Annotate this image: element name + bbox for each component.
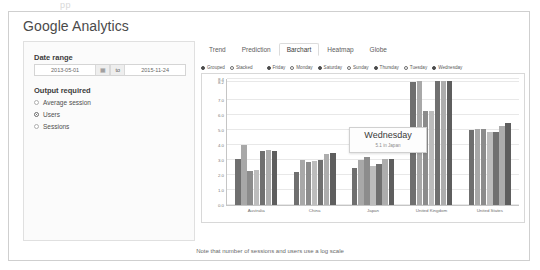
date-range-separator: to bbox=[110, 65, 125, 75]
legend-label: Sunday bbox=[353, 65, 369, 70]
radio-option-sessions[interactable]: Sessions bbox=[34, 121, 184, 132]
legend-label: Friday bbox=[273, 65, 286, 70]
page-title: Google Analytics bbox=[23, 18, 129, 34]
radio-option-users[interactable]: Users bbox=[34, 109, 184, 120]
bar[interactable] bbox=[435, 81, 440, 206]
x-axis-tick-label: China bbox=[285, 208, 343, 213]
bar[interactable] bbox=[441, 81, 446, 206]
bar-chart: 0.01.02.03.04.05.06.07.08.28.4 Australia… bbox=[201, 73, 525, 223]
date-start-input[interactable]: 2013-05-01 bbox=[35, 65, 95, 75]
legend-label: Wednesday bbox=[438, 65, 462, 70]
bar[interactable] bbox=[389, 159, 394, 206]
legend-option-monday[interactable]: Monday bbox=[290, 65, 312, 70]
tab-heatmap[interactable]: Heatmap bbox=[319, 43, 361, 56]
legend-option-stacked[interactable]: Stacked bbox=[230, 65, 253, 70]
radio-label: Average session bbox=[43, 99, 91, 106]
chart-region: Trend Prediction Barchart Heatmap Globe … bbox=[201, 42, 525, 241]
tab-trend[interactable]: Trend bbox=[201, 43, 234, 56]
date-range-label: Date range bbox=[34, 53, 73, 62]
bar[interactable] bbox=[294, 172, 299, 205]
tab-bar: Trend Prediction Barchart Heatmap Globe bbox=[201, 42, 525, 57]
bar[interactable] bbox=[429, 111, 434, 206]
calendar-icon[interactable]: ▦ bbox=[95, 65, 110, 75]
radio-icon[interactable] bbox=[34, 112, 39, 117]
legend-option-saturday[interactable]: Saturday bbox=[318, 65, 342, 70]
legend-option-sunday[interactable]: Sunday bbox=[347, 65, 369, 70]
tooltip-subtitle: 5.1 in Japan bbox=[354, 143, 422, 148]
y-axis-tick-label: 6.0 bbox=[218, 113, 224, 118]
bar[interactable] bbox=[266, 150, 271, 206]
bar[interactable] bbox=[376, 164, 381, 205]
calendar-glyph: ▦ bbox=[100, 67, 106, 73]
y-axis-tick-label: 3.0 bbox=[218, 158, 224, 163]
bar[interactable] bbox=[300, 160, 305, 205]
checkbox-icon[interactable] bbox=[290, 66, 294, 70]
bar[interactable] bbox=[318, 160, 323, 205]
legend-option-thursday[interactable]: Thursday bbox=[374, 65, 399, 70]
radio-icon[interactable] bbox=[230, 66, 234, 70]
bar[interactable] bbox=[272, 151, 277, 205]
y-axis-tick-label: 7.0 bbox=[218, 98, 224, 103]
bar[interactable] bbox=[324, 154, 329, 205]
bar[interactable] bbox=[306, 162, 311, 206]
date-range-input-group[interactable]: 2013-05-01 ▦ to 2015-11-24 bbox=[34, 64, 186, 76]
bar[interactable] bbox=[241, 145, 246, 205]
legend-label: Saturday bbox=[324, 65, 342, 70]
bar[interactable] bbox=[382, 159, 387, 206]
tab-prediction[interactable]: Prediction bbox=[234, 43, 279, 56]
legend-option-grouped[interactable]: Grouped bbox=[201, 65, 225, 70]
app-card: Google Analytics Date range 2013-05-01 ▦… bbox=[8, 11, 530, 261]
y-axis-tick-label: 2.0 bbox=[218, 173, 224, 178]
bar[interactable] bbox=[330, 153, 335, 206]
bar[interactable] bbox=[254, 170, 259, 205]
bar[interactable] bbox=[370, 166, 375, 205]
x-axis-tick-label: United States bbox=[461, 208, 519, 213]
bar[interactable] bbox=[505, 123, 510, 206]
date-end-input[interactable]: 2015-11-24 bbox=[125, 65, 185, 75]
tab-barchart[interactable]: Barchart bbox=[279, 43, 320, 56]
chart-legend: Grouped Stacked Friday Monday Saturday S… bbox=[201, 63, 525, 72]
legend-option-friday[interactable]: Friday bbox=[267, 65, 286, 70]
bar-group: Australia bbox=[227, 79, 285, 205]
bar[interactable] bbox=[235, 159, 240, 206]
bar[interactable] bbox=[260, 151, 265, 205]
bar[interactable] bbox=[487, 132, 492, 205]
radio-icon[interactable] bbox=[201, 66, 205, 70]
bar[interactable] bbox=[447, 81, 452, 206]
bar[interactable] bbox=[493, 132, 498, 206]
output-required-label: Output required bbox=[34, 86, 91, 95]
bar[interactable] bbox=[475, 129, 480, 206]
bar[interactable] bbox=[364, 157, 369, 205]
checkbox-icon[interactable] bbox=[267, 66, 271, 70]
bar-group: United States bbox=[461, 79, 519, 205]
legend-option-wednesday[interactable]: Wednesday bbox=[432, 65, 462, 70]
y-axis-tick-label: 8.4 bbox=[218, 77, 224, 82]
checkbox-icon[interactable] bbox=[404, 66, 408, 70]
checkbox-icon[interactable] bbox=[374, 66, 378, 70]
y-axis-tick-label: 4.0 bbox=[218, 143, 224, 148]
tab-globe[interactable]: Globe bbox=[362, 43, 395, 56]
checkbox-icon[interactable] bbox=[347, 66, 351, 70]
bar[interactable] bbox=[352, 168, 357, 205]
output-required-radio-group: Average session Users Sessions bbox=[34, 97, 184, 133]
x-axis-tick-label: Japan bbox=[344, 208, 402, 213]
radio-icon[interactable] bbox=[34, 124, 39, 129]
chart-tooltip: Wednesday 5.1 in Japan bbox=[349, 127, 427, 153]
checkbox-icon[interactable] bbox=[318, 66, 322, 70]
y-axis-tick-label: 5.0 bbox=[218, 128, 224, 133]
bar[interactable] bbox=[247, 171, 252, 206]
x-axis-tick-label: United Kingdom bbox=[402, 208, 460, 213]
bar[interactable] bbox=[481, 129, 486, 205]
bar[interactable] bbox=[423, 111, 428, 206]
radio-icon[interactable] bbox=[34, 100, 39, 105]
bar[interactable] bbox=[358, 160, 363, 205]
bar[interactable] bbox=[469, 130, 474, 205]
bar-group: China bbox=[285, 79, 343, 205]
bar[interactable] bbox=[499, 126, 504, 206]
checkbox-icon[interactable] bbox=[432, 66, 436, 70]
x-axis-tick-label: Australia bbox=[227, 208, 285, 213]
radio-option-average-session[interactable]: Average session bbox=[34, 97, 184, 108]
radio-label: Users bbox=[43, 111, 60, 118]
legend-option-tuesday[interactable]: Tuesday bbox=[404, 65, 427, 70]
bar[interactable] bbox=[312, 161, 317, 205]
